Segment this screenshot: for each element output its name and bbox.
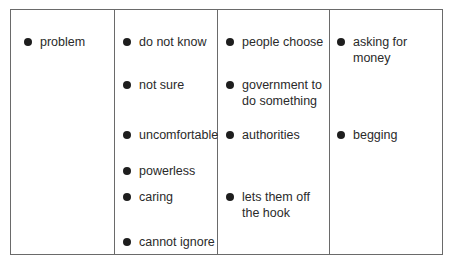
item-text: powerless xyxy=(139,163,195,179)
list-item: uncomfortable xyxy=(123,127,218,143)
bullet-icon xyxy=(24,38,32,46)
bullet-icon xyxy=(226,81,234,89)
list-item: problem xyxy=(24,34,85,50)
list-item: begging xyxy=(337,127,398,143)
item-text-line1: asking for xyxy=(353,34,407,50)
list-item: not sure xyxy=(123,77,184,93)
item-text-line1: government to xyxy=(242,77,322,93)
item-text: uncomfortable xyxy=(139,127,218,143)
item-text: caring xyxy=(139,189,173,205)
four-column-table: problem do not know not sure uncomfortab… xyxy=(10,9,443,255)
list-item: people choose xyxy=(226,34,323,50)
bullet-icon xyxy=(123,238,131,246)
column-divider xyxy=(329,10,330,254)
list-item: caring xyxy=(123,189,173,205)
list-item: lets them off the hook xyxy=(226,189,310,221)
bullet-icon xyxy=(337,131,345,139)
item-text-line2: money xyxy=(353,50,407,66)
item-text: problem xyxy=(40,34,85,50)
list-item: powerless xyxy=(123,163,195,179)
item-text: not sure xyxy=(139,77,184,93)
bullet-icon xyxy=(226,131,234,139)
list-item: do not know xyxy=(123,34,206,50)
bullet-icon xyxy=(123,131,131,139)
item-text-line2: do something xyxy=(242,93,322,109)
bullet-icon xyxy=(123,167,131,175)
item-text: people choose xyxy=(242,34,323,50)
item-text: begging xyxy=(353,127,398,143)
list-item: asking for money xyxy=(337,34,407,66)
bullet-icon xyxy=(226,193,234,201)
item-text: cannot ignore xyxy=(139,234,215,250)
item-text-line1: lets them off xyxy=(242,189,310,205)
list-item: authorities xyxy=(226,127,300,143)
item-text: do not know xyxy=(139,34,206,50)
bullet-icon xyxy=(123,193,131,201)
column-divider xyxy=(114,10,115,254)
bullet-icon xyxy=(123,81,131,89)
item-text: authorities xyxy=(242,127,300,143)
bullet-icon xyxy=(337,38,345,46)
bullet-icon xyxy=(226,38,234,46)
list-item: government to do something xyxy=(226,77,322,109)
item-text-line2: the hook xyxy=(242,205,310,221)
list-item: cannot ignore xyxy=(123,234,215,250)
bullet-icon xyxy=(123,38,131,46)
